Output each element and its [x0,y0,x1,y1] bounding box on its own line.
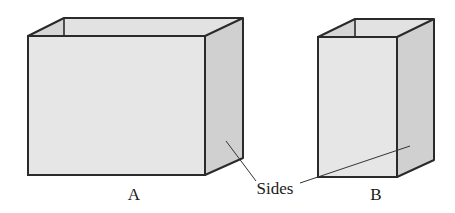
boxes-diagram: A Sides B [0,0,455,213]
box-b-front-face [318,37,397,177]
box-a-side-face [205,18,243,175]
box-a [28,18,243,175]
box-b-side-face [397,19,434,177]
label-box-a: A [128,185,141,204]
diagram-canvas: A Sides B [0,0,455,213]
label-box-b: B [370,185,381,204]
box-a-front-face [28,36,205,175]
box-b [318,19,434,177]
label-sides: Sides [257,179,294,198]
